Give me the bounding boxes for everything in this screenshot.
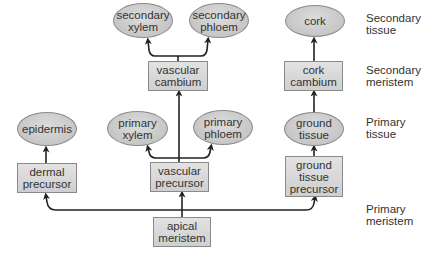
node-vascular-precursor: vascular precursor [150, 162, 209, 192]
node-ground-tissue-precursor: ground tissue precursor [285, 156, 343, 197]
plant-tissue-development-diagram: secondary xylem secondary phloem cork va… [0, 0, 438, 256]
node-secondary-phloem: secondary phloem [189, 3, 249, 38]
arrow-apical-to-ground-precursor [182, 198, 315, 210]
arrow-to-primary-xylem [148, 148, 179, 158]
row-label-primary-meristem: Primary meristem [366, 203, 413, 227]
arrow-to-secondary-xylem [148, 41, 178, 61]
row-label-secondary-meristem: Secondary meristem [366, 64, 421, 88]
node-cork-cambium: cork cambium [284, 61, 343, 91]
node-primary-phloem: primary phloem [193, 110, 253, 145]
node-ground-tissue: ground tissue [284, 112, 344, 146]
node-vascular-cambium: vascular cambium [148, 61, 208, 91]
node-dermal-precursor: dermal precursor [17, 163, 77, 193]
node-apical-meristem: apical meristem [153, 217, 211, 247]
node-secondary-xylem: secondary xylem [113, 3, 173, 38]
node-epidermis: epidermis [17, 112, 77, 146]
arrow-apical-to-dermal-precursor [46, 196, 182, 210]
row-label-primary-tissue: Primary tissue [366, 116, 406, 140]
node-primary-xylem: primary xylem [107, 111, 168, 146]
arrow-to-primary-phloem [179, 147, 211, 158]
node-cork: cork [285, 5, 345, 37]
arrow-to-secondary-phloem [178, 40, 208, 56]
row-label-secondary-tissue: Secondary tissue [366, 12, 421, 36]
